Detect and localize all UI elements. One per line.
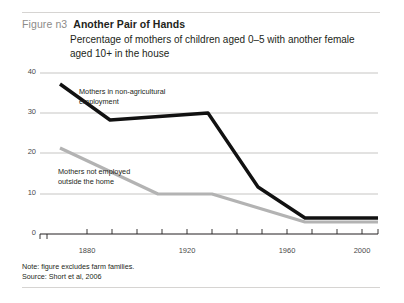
x-tick-label-2000: 2000	[342, 246, 382, 255]
annotation-non-agricultural-line-1: Mothers in non-agricultural	[79, 87, 165, 96]
y-tick-label-10: 10	[20, 188, 36, 197]
figure-source-text: Source: Short et al, 2006	[22, 272, 102, 281]
y-tick-label-40: 40	[20, 67, 36, 76]
y-tick-label-20: 20	[20, 147, 36, 156]
annotation-not-employed-line-1: Mothers not employed	[58, 167, 130, 176]
line-chart-plot	[0, 0, 404, 303]
bottom-divider	[22, 287, 380, 288]
x-tick-label-1920: 1920	[167, 246, 207, 255]
annotation-not-employed-line-2: outside the home	[58, 177, 114, 186]
annotation-non-agricultural: Mothers in non-agricultural employment	[79, 87, 165, 106]
x-tick-label-1960: 1960	[267, 246, 307, 255]
x-tick-label-1880: 1880	[67, 246, 107, 255]
y-tick-label-30: 30	[20, 107, 36, 116]
figure-note-text: Note: figure excludes farm families.	[22, 262, 134, 271]
annotation-non-agricultural-line-2: employment	[79, 97, 119, 106]
figure-footnote: Note: figure excludes farm families. Sou…	[22, 262, 134, 281]
y-tick-label-0: 0	[20, 228, 36, 237]
figure-panel: Figure n3 Another Pair of Hands Percenta…	[0, 0, 404, 303]
x-axis	[40, 229, 378, 239]
annotation-not-employed: Mothers not employed outside the home	[58, 167, 130, 186]
